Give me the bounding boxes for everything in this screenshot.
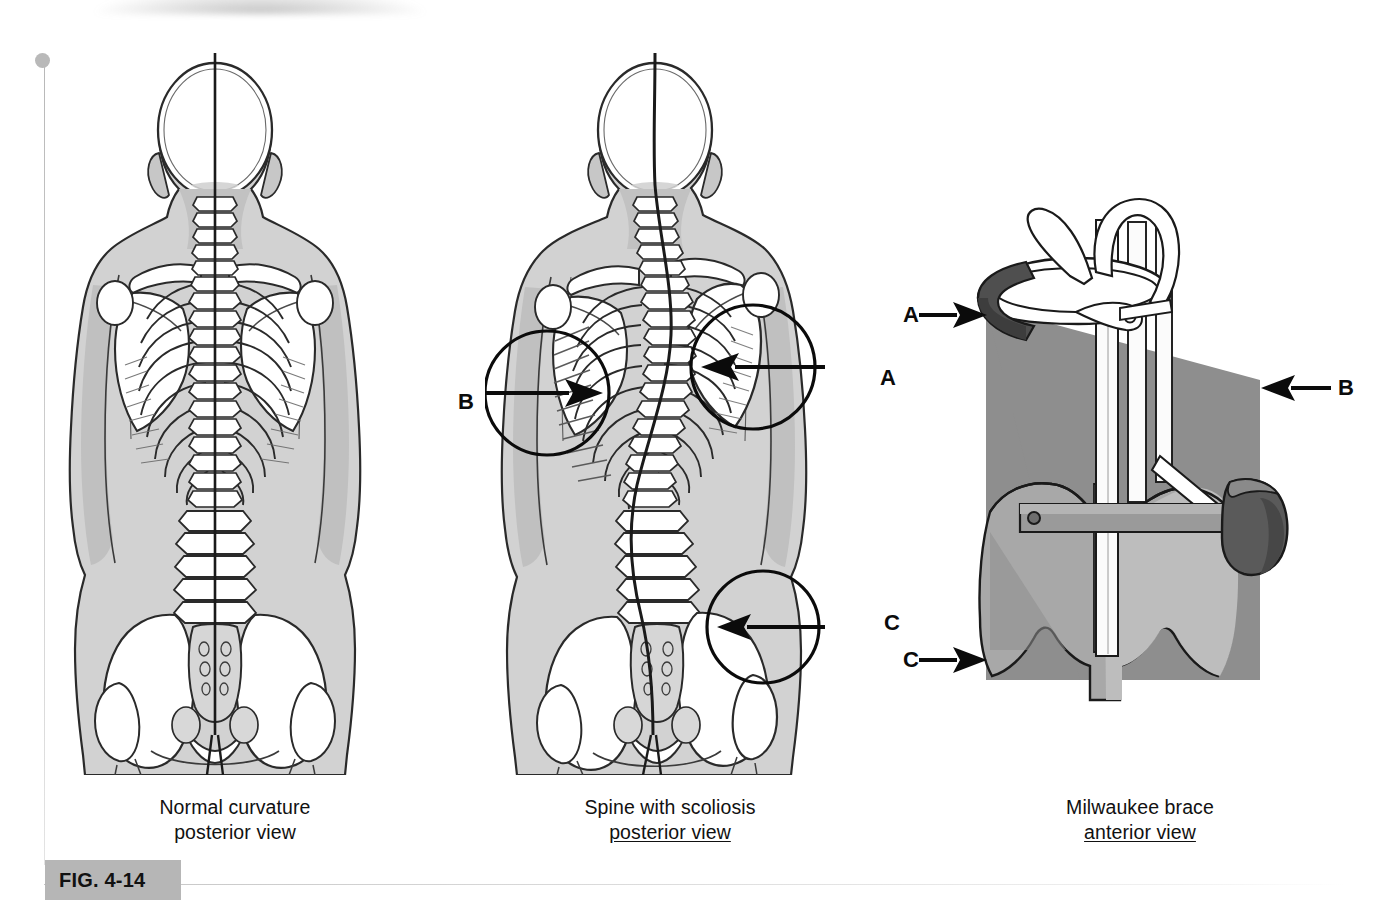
figure-number-text: FIG. 4-14 xyxy=(45,869,145,892)
caption-line-1: Spine with scoliosis xyxy=(530,795,810,820)
caption-line-1: Milwaukee brace xyxy=(1000,795,1280,820)
scoliosis-spine-illustration xyxy=(485,35,825,775)
panel-scoliosis-spine xyxy=(485,35,825,775)
figure-number-tag: FIG. 4-14 xyxy=(45,860,181,900)
callout-label-c-scoliosis: C xyxy=(884,612,900,634)
normal-spine-illustration xyxy=(55,35,375,775)
caption-line-2: posterior view xyxy=(530,820,810,845)
callout-label-a-brace: A xyxy=(903,304,919,326)
caption-normal-spine: Normal curvature posterior view xyxy=(95,795,375,845)
figure-page: B A C xyxy=(0,0,1395,919)
page-bottom-edge xyxy=(44,884,1344,885)
callout-label-c-brace: C xyxy=(903,649,919,671)
scan-shadow-top xyxy=(95,0,425,14)
callout-label-b-scoliosis: B xyxy=(458,391,474,413)
callout-label-b-brace: B xyxy=(1338,377,1354,399)
caption-line-2: anterior view xyxy=(1000,820,1280,845)
callout-label-a-scoliosis: A xyxy=(880,367,896,389)
caption-milwaukee-brace: Milwaukee brace anterior view xyxy=(1000,795,1280,845)
caption-scoliosis-spine: Spine with scoliosis posterior view xyxy=(530,795,810,845)
caption-line-1: Normal curvature xyxy=(95,795,375,820)
caption-line-2: posterior view xyxy=(95,820,375,845)
page-left-edge xyxy=(44,60,45,865)
scan-artifact-dot xyxy=(35,53,50,68)
panel-normal-spine xyxy=(55,35,375,775)
